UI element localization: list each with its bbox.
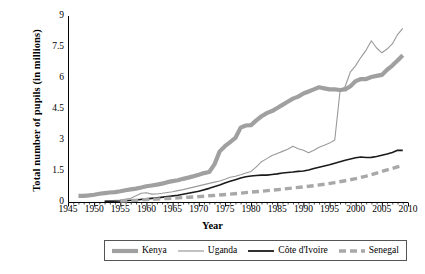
y-tick-label: 7.5: [40, 42, 64, 52]
y-tick-label: 9: [40, 11, 64, 21]
y-tick-label: 1.5: [40, 166, 64, 176]
y-axis-tick-labels: 01.534.567.59: [36, 0, 64, 274]
plot-area: [68, 16, 408, 202]
legend-item[interactable]: Kenya: [112, 246, 167, 256]
legend-swatch-icon: [112, 246, 138, 256]
legend-swatch-icon: [339, 246, 365, 256]
legend-swatch-icon: [178, 246, 204, 256]
legend-item[interactable]: Uganda: [178, 246, 238, 256]
legend-item[interactable]: Côte d'Ivoire: [248, 246, 327, 256]
x-axis-tick-labels: 1945195019551960196519701975198019851990…: [0, 205, 425, 219]
legend-item[interactable]: Senegal: [339, 246, 399, 256]
legend-label: Senegal: [369, 246, 399, 256]
x-tick-label: 2010: [388, 205, 425, 215]
y-tick-label: 3: [40, 135, 64, 145]
x-axis-label: Year: [0, 220, 425, 231]
legend-swatch-icon: [248, 246, 274, 256]
chart-canvas: [68, 16, 410, 212]
legend-label: Uganda: [208, 246, 238, 256]
legend-label: Kenya: [142, 246, 167, 256]
legend-label: Côte d'Ivoire: [278, 246, 327, 256]
chart-figure: Total number of pupils (in millions) 01.…: [0, 0, 425, 274]
y-tick-label: 4.5: [40, 104, 64, 114]
y-tick-label: 6: [40, 73, 64, 83]
chart-legend: KenyaUgandaCôte d'IvoireSenegal: [104, 240, 407, 261]
